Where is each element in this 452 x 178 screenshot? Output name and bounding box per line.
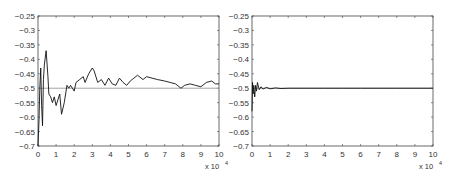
x-multiplier-exponent: 4 <box>225 160 228 166</box>
x-tick-label: 8 <box>395 150 400 159</box>
x-tick-label: 7 <box>376 150 381 159</box>
x-tick-label: 10 <box>429 150 438 159</box>
series-line <box>252 82 433 111</box>
x-tick-label: 3 <box>304 150 309 159</box>
y-tick-label: −0.25 <box>15 12 36 21</box>
chart-canvas: 012345678910−0.25−0.3−0.35−0.4−0.45−0.5−… <box>0 0 452 178</box>
x-tick-label: 5 <box>126 150 131 159</box>
x-multiplier-label: x 10 <box>205 162 219 171</box>
y-tick-label: −0.65 <box>15 128 36 137</box>
x-tick-label: 2 <box>72 150 77 159</box>
y-tick-label: −0.4 <box>19 55 35 64</box>
right-plot: 012345678910−0.25−0.3−0.35−0.4−0.45−0.5−… <box>229 12 442 171</box>
y-tick-label: −0.55 <box>15 99 36 108</box>
y-tick-label: −0.4 <box>233 55 249 64</box>
x-tick-label: 1 <box>268 150 273 159</box>
y-tick-label: −0.6 <box>233 113 249 122</box>
x-tick-label: 2 <box>286 150 291 159</box>
x-tick-label: 0 <box>36 150 41 159</box>
y-tick-label: −0.45 <box>229 70 250 79</box>
y-tick-label: −0.55 <box>229 99 250 108</box>
y-tick-label: −0.3 <box>19 26 35 35</box>
x-tick-label: 4 <box>108 150 113 159</box>
x-tick-label: 10 <box>215 150 224 159</box>
x-tick-label: 3 <box>90 150 95 159</box>
axes-frame <box>38 16 219 146</box>
x-tick-label: 8 <box>181 150 186 159</box>
left-plot: 012345678910−0.25−0.3−0.35−0.4−0.45−0.5−… <box>15 12 228 171</box>
x-multiplier-exponent: 4 <box>439 160 442 166</box>
y-tick-label: −0.35 <box>229 41 250 50</box>
y-tick-label: −0.45 <box>15 70 36 79</box>
y-tick-label: −0.7 <box>233 142 249 151</box>
y-tick-label: −0.65 <box>229 128 250 137</box>
x-multiplier-label: x 10 <box>419 162 433 171</box>
axes-frame <box>252 16 433 146</box>
y-tick-label: −0.3 <box>233 26 249 35</box>
x-tick-label: 9 <box>199 150 204 159</box>
x-tick-label: 4 <box>322 150 327 159</box>
y-tick-label: −0.7 <box>19 142 35 151</box>
series-line <box>38 51 219 146</box>
y-tick-label: −0.6 <box>19 113 35 122</box>
y-tick-label: −0.35 <box>15 41 36 50</box>
x-tick-label: 6 <box>358 150 363 159</box>
x-tick-label: 5 <box>340 150 345 159</box>
y-tick-label: −0.5 <box>19 84 35 93</box>
x-tick-label: 1 <box>54 150 59 159</box>
x-tick-label: 7 <box>162 150 167 159</box>
x-tick-label: 6 <box>144 150 149 159</box>
x-tick-label: 9 <box>413 150 418 159</box>
x-tick-label: 0 <box>250 150 255 159</box>
y-tick-label: −0.25 <box>229 12 250 21</box>
y-tick-label: −0.5 <box>233 84 249 93</box>
